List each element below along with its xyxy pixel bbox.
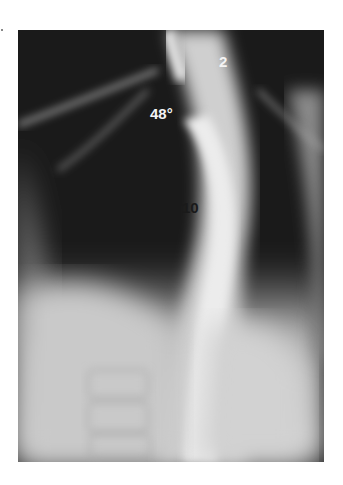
scan-mark <box>1 29 3 31</box>
vertebra-label-upper: 2 <box>219 54 227 69</box>
xray-image: 2 48° 10 <box>18 30 324 462</box>
xray-graphic <box>18 30 324 462</box>
cobb-angle-label: 48° <box>150 106 173 121</box>
vertebra-label-lower: 10 <box>182 200 199 215</box>
